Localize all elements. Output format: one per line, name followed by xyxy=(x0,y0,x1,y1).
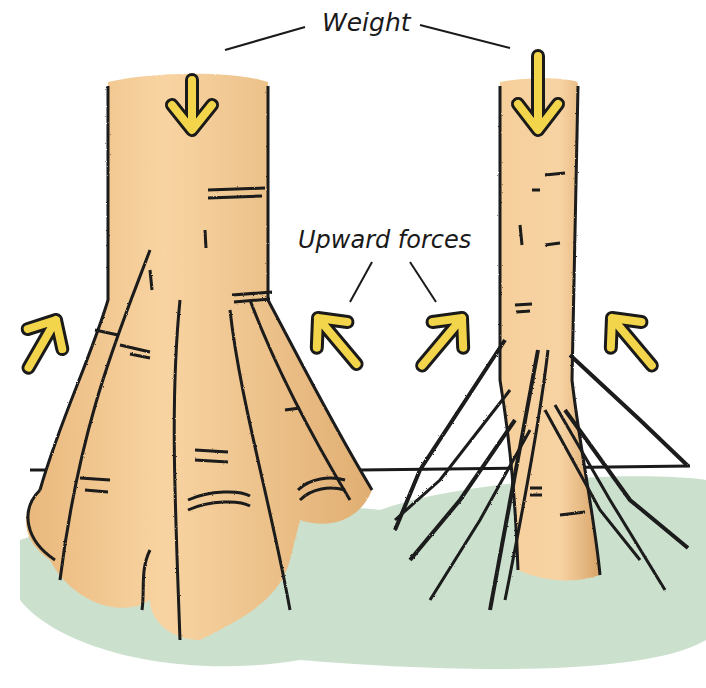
arrow-upward-far-right xyxy=(597,305,667,378)
diagram-canvas xyxy=(0,0,706,688)
arrow-upward-mid-left xyxy=(303,305,372,377)
arrow-upward-mid-right xyxy=(407,305,477,378)
weight-label: Weight xyxy=(322,8,411,37)
upward-forces-label: Upward forces xyxy=(298,226,471,254)
arrow-upward-far-left xyxy=(11,310,73,378)
